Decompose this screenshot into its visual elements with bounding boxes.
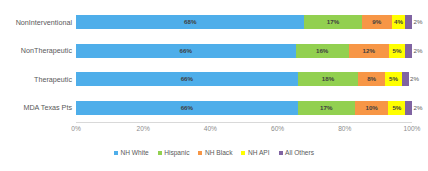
bar-row: 68%17%9%4%2% [76,8,412,37]
legend-label: All Others [285,150,314,157]
bar-segment-all-others[interactable]: 2% [405,44,412,58]
bar-segment-nh-black[interactable]: 9% [362,15,392,29]
chart-legend: NH WhiteHispanicNH BlackNH APIAll Others [0,150,428,157]
legend-label: NH API [248,150,270,157]
bar-row: 66%16%12%5%2% [76,37,412,66]
stacked-bar: 68%17%9%4%2% [76,15,412,29]
legend-label: NH White [120,150,148,157]
x-axis-tick: 40% [204,126,217,133]
bar-segment-nh-white[interactable]: 68% [76,15,304,29]
legend-swatch-icon [241,151,245,155]
y-axis-category-labels: NonInterventionalNonTherapeuticTherapeut… [0,8,72,122]
bar-segment-nh-api[interactable]: 4% [392,15,405,29]
y-axis-category-1: NonInterventional [0,8,72,37]
category-label: MDA Texas Pts [0,104,72,111]
bar-segment-all-others[interactable]: 2% [405,101,412,115]
x-axis-tick: 80% [338,126,351,133]
legend-item-nh-api[interactable]: NH API [241,150,269,157]
legend-item-nh-white[interactable]: NH White [114,150,149,157]
bar-segment-hispanic[interactable]: 17% [298,101,355,115]
segment-value-label: 12% [363,48,375,54]
bar-segment-hispanic[interactable]: 16% [296,44,349,58]
segment-value-label: 66% [181,105,193,111]
segment-value-label: 17% [327,19,339,25]
legend-swatch-icon [114,151,118,155]
category-label: Therapeutic [0,76,72,83]
y-axis-category-2: NonTherapeutic [0,37,72,66]
x-axis-tick: 20% [137,126,150,133]
segment-value-label: 68% [184,19,196,25]
stacked-bar: 66%17%10%5%2% [76,101,412,115]
segment-value-label: 2% [413,19,422,25]
bar-row: 66%18%8%5%2% [76,65,412,94]
bar-segment-all-others[interactable]: 2% [402,72,409,86]
bar-segment-nh-black[interactable]: 10% [355,101,389,115]
bar-segment-nh-black[interactable]: 12% [349,44,389,58]
legend-label: Hispanic [164,150,189,157]
segment-value-label: 16% [316,48,328,54]
legend-label: NH Black [205,150,232,157]
category-label: NonInterventional [0,19,72,26]
bar-segment-nh-white[interactable]: 66% [76,72,298,86]
y-axis-category-4: MDA Texas Pts [0,94,72,123]
segment-value-label: 10% [365,105,377,111]
segment-value-label: 17% [320,105,332,111]
legend-item-nh-black[interactable]: NH Black [198,150,232,157]
category-label: NonTherapeutic [0,47,72,54]
segment-value-label: 2% [414,48,423,54]
bar-segment-nh-api[interactable]: 5% [389,44,406,58]
plot-area: 68%17%9%4%2%66%16%12%5%2%66%18%8%5%2%66%… [76,8,412,122]
legend-swatch-icon [198,151,202,155]
bar-segment-nh-white[interactable]: 66% [76,44,296,58]
segment-value-label: 4% [394,19,403,25]
bar-segment-nh-black[interactable]: 8% [358,72,385,86]
segment-value-label: 8% [367,76,376,82]
bar-segment-hispanic[interactable]: 18% [298,72,358,86]
segment-value-label: 18% [322,76,334,82]
legend-swatch-icon [279,151,283,155]
segment-value-label: 5% [392,105,401,111]
segment-value-label: 66% [180,48,192,54]
segment-value-label: 2% [410,76,419,82]
chart-container: NonInterventionalNonTherapeuticTherapeut… [0,0,428,171]
segment-value-label: 2% [413,105,422,111]
legend-swatch-icon [158,151,162,155]
legend-item-all-others[interactable]: All Others [279,150,314,157]
segment-value-label: 5% [389,76,398,82]
x-axis-tick: 0% [71,126,81,133]
x-axis-tick-labels: 0%20%40%60%80%100% [76,126,412,138]
y-axis-category-3: Therapeutic [0,65,72,94]
segment-value-label: 9% [372,19,381,25]
x-axis-tick: 60% [271,126,284,133]
stacked-bar: 66%18%8%5%2% [76,72,412,86]
bar-segment-nh-api[interactable]: 5% [385,72,402,86]
stacked-bar: 66%16%12%5%2% [76,44,412,58]
bar-segment-nh-api[interactable]: 5% [388,101,405,115]
x-axis-tick: 100% [404,126,421,133]
bar-segment-all-others[interactable]: 2% [405,15,412,29]
bar-row: 66%17%10%5%2% [76,94,412,123]
bar-segment-hispanic[interactable]: 17% [304,15,361,29]
legend-item-hispanic[interactable]: Hispanic [158,150,190,157]
segment-value-label: 66% [181,76,193,82]
segment-value-label: 5% [393,48,402,54]
x-axis-line [76,122,412,123]
bar-segment-nh-white[interactable]: 66% [76,101,298,115]
